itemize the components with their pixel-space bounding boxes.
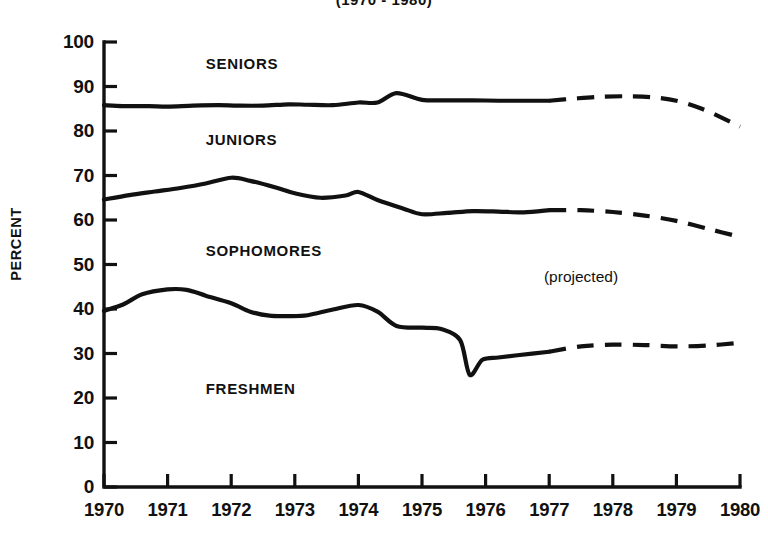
- annotation-projected: (projected): [544, 268, 618, 286]
- series-projection-seniors: [549, 96, 740, 126]
- series-label-seniors: SENIORS: [206, 55, 278, 72]
- chart-figure: (1970 - 1980) PERCENT 010203040506070809…: [0, 0, 768, 534]
- plot-area: [0, 0, 768, 534]
- series-label-sophomores: SOPHOMORES: [206, 242, 322, 259]
- series-projection-juniors: [549, 210, 740, 237]
- series-projection-freshmen: [549, 343, 740, 352]
- series-line-juniors: [104, 178, 549, 215]
- series-label-freshmen: FRESHMEN: [206, 380, 296, 397]
- series-label-juniors: JUNIORS: [206, 131, 278, 148]
- series-line-freshmen: [104, 289, 549, 375]
- series-line-seniors: [104, 93, 549, 106]
